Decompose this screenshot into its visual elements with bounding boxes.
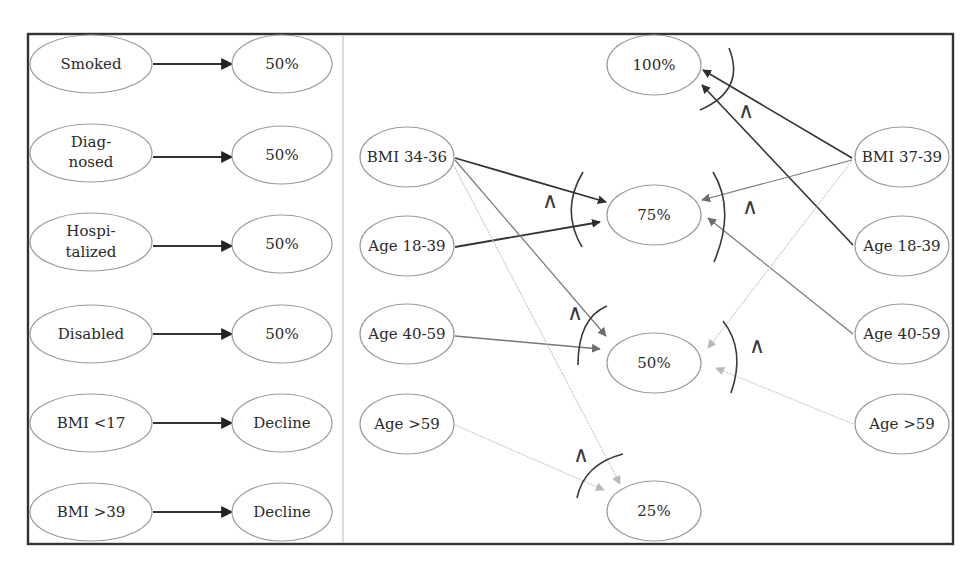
- outcome-label: 50%: [265, 55, 298, 73]
- rule-row: BMI >39 Decline: [30, 483, 332, 541]
- input-label: Age 18-39: [367, 237, 445, 255]
- and-symbol: ∧: [542, 188, 558, 213]
- condition-label-line1: Diag-: [71, 133, 111, 151]
- outcome-label: 50%: [637, 354, 670, 372]
- rule-row: Diag- nosed 50%: [30, 124, 332, 184]
- outcome-label: 25%: [637, 502, 670, 520]
- and-arc: [713, 172, 725, 262]
- and-symbol: ∧: [738, 98, 754, 123]
- outcome-nodes: 100% 75% 50% 25%: [607, 35, 701, 541]
- outcome-label: Decline: [253, 503, 311, 521]
- outcome-label: 75%: [637, 206, 670, 224]
- outcome-label: 50%: [265, 146, 298, 164]
- diagram-frame: [28, 34, 953, 544]
- condition-label: Disabled: [58, 325, 125, 343]
- outcome-label: 100%: [633, 56, 676, 74]
- and-symbol: ∧: [573, 442, 589, 467]
- left-panel: Smoked 50% Diag- nosed 50% Hospi- talize…: [30, 35, 332, 541]
- and-arc: [723, 321, 737, 393]
- and-symbol: ∧: [567, 300, 583, 325]
- outcome-label: Decline: [253, 414, 311, 432]
- input-label: Age 40-59: [367, 325, 445, 343]
- edge-bmi3436-to-50: [455, 160, 606, 336]
- and-symbol: ∧: [742, 194, 758, 219]
- input-label: Age 18-39: [862, 237, 940, 255]
- condition-label-line1: Hospi-: [66, 222, 115, 240]
- condition-label-line2: nosed: [69, 153, 114, 171]
- input-label: Age >59: [373, 415, 440, 433]
- condition-label: BMI >39: [57, 503, 126, 521]
- edge-age59r-to-50: [716, 368, 853, 424]
- edge-bmi3739-to-75: [702, 160, 852, 200]
- rule-row: Smoked 50%: [30, 35, 332, 93]
- condition-label: BMI <17: [57, 414, 126, 432]
- and-arc: [571, 172, 583, 247]
- outcome-label: 50%: [265, 235, 298, 253]
- edge-bmi3436-to-75: [455, 158, 606, 202]
- right-input-nodes: BMI 37-39 Age 18-39 Age 40-59 Age >59: [855, 127, 949, 454]
- outcome-label: 50%: [265, 325, 298, 343]
- rule-row: Disabled 50%: [30, 305, 332, 363]
- edges: [452, 70, 853, 490]
- condition-label-line2: talized: [66, 243, 117, 261]
- edge-age4059-to-50: [455, 336, 600, 349]
- right-panel: ∧ ∧ ∧ ∧ ∧ ∧ 100% 75% 50% 25%: [360, 35, 949, 541]
- rule-row: BMI <17 Decline: [30, 394, 332, 452]
- decision-diagram: Smoked 50% Diag- nosed 50% Hospi- talize…: [0, 0, 980, 569]
- left-input-nodes: BMI 34-36 Age 18-39 Age 40-59 Age >59: [360, 127, 454, 454]
- input-label: BMI 34-36: [367, 148, 447, 166]
- input-label: Age 40-59: [862, 325, 940, 343]
- input-label: Age >59: [868, 415, 935, 433]
- input-label: BMI 37-39: [862, 148, 942, 166]
- edge-age1839-to-75: [455, 222, 600, 247]
- edge-bmi3739-to-50: [708, 162, 851, 348]
- edge-bmi3739-to-100: [703, 70, 852, 158]
- and-symbol: ∧: [749, 333, 765, 358]
- condition-label: Smoked: [60, 55, 121, 73]
- edge-age4059r-to-75: [708, 218, 853, 334]
- rule-row: Hospi- talized 50%: [30, 213, 332, 273]
